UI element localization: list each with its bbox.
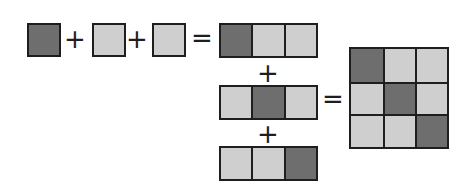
strip-2-cell-3: [284, 87, 316, 118]
strip-1-cell-1: [221, 25, 251, 56]
plus-sign-3: +: [256, 60, 280, 86]
strip-1-cell-2: [251, 25, 283, 56]
term-square-3-light: [152, 23, 186, 57]
plus-sign-2: +: [125, 26, 149, 52]
equals-sign-1: =: [190, 25, 214, 51]
strip-row-2: [219, 85, 318, 120]
grid-cell-1-3: [415, 49, 447, 82]
strip-1-cell-3: [284, 25, 316, 56]
grid-cell-3-3: [415, 114, 447, 147]
equals-sign-2: =: [321, 86, 345, 112]
grid-cell-2-3: [415, 82, 447, 115]
strip-3-cell-1: [221, 148, 251, 179]
grid-cell-2-2: [383, 82, 415, 115]
result-grid: [349, 47, 449, 149]
strip-row-3: [219, 146, 318, 181]
strip-3-cell-2: [251, 148, 283, 179]
strip-row-1: [219, 23, 318, 58]
strip-2-cell-2: [251, 87, 283, 118]
strip-2-cell-1: [221, 87, 251, 118]
term-square-2-light: [92, 23, 126, 57]
grid-cell-2-1: [351, 82, 383, 115]
strip-3-cell-3: [284, 148, 316, 179]
term-square-1-dark: [27, 23, 61, 57]
grid-cell-1-2: [383, 49, 415, 82]
grid-cell-3-1: [351, 114, 383, 147]
plus-sign-1: +: [63, 26, 87, 52]
grid-cell-3-2: [383, 114, 415, 147]
grid-cell-1-1: [351, 49, 383, 82]
plus-sign-4: +: [256, 121, 280, 147]
